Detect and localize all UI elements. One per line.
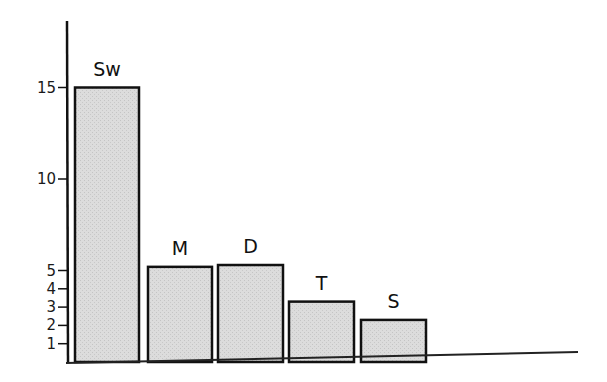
y-tick-label: 1 bbox=[46, 335, 56, 353]
y-tick-label: 15 bbox=[37, 79, 56, 97]
bar-label: D bbox=[243, 235, 258, 257]
y-tick-label: 3 bbox=[46, 298, 56, 316]
bar-label: T bbox=[315, 272, 328, 294]
bar-t bbox=[289, 302, 354, 362]
y-axis-line bbox=[67, 21, 68, 363]
bar-m bbox=[148, 267, 212, 362]
bars-group: SwMDTS bbox=[75, 58, 426, 363]
y-tick-label: 10 bbox=[37, 170, 56, 188]
bar-label: M bbox=[172, 237, 188, 259]
y-tick-label: 2 bbox=[46, 316, 56, 334]
bar-label: Sw bbox=[93, 58, 121, 80]
y-tick-label: 4 bbox=[46, 280, 56, 298]
bar-label: S bbox=[387, 290, 399, 312]
bar-sw bbox=[75, 88, 139, 363]
bar-d bbox=[218, 265, 283, 362]
y-tick-label: 5 bbox=[46, 262, 56, 280]
y-axis: 123451015 bbox=[37, 79, 68, 353]
bar-chart: SwMDTS 123451015 bbox=[0, 0, 607, 382]
